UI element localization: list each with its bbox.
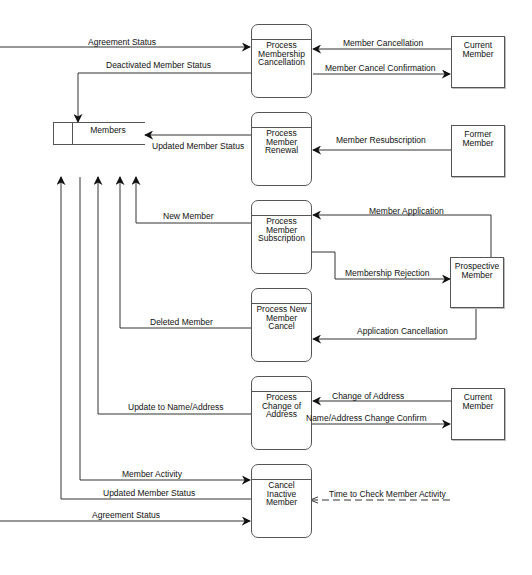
flow-label-member-activity: Member Activity	[122, 469, 182, 479]
flow-label-time-to-check: Time to Check Member Activity	[329, 489, 446, 499]
flow-label-name-address-change-confirm: Name/Address Change Confirm	[306, 413, 426, 423]
flow-label-new-member: New Member	[163, 211, 214, 221]
process-membership-cancellation[interactable]: ProcessMembershipCancellation	[251, 24, 312, 98]
process-header	[252, 113, 311, 128]
process-cancel-inactive-member[interactable]: CancelInactiveMember	[251, 464, 312, 538]
entity-former-member[interactable]: FormerMember	[451, 125, 505, 177]
flow-label-membership-rejection: Membership Rejection	[345, 268, 430, 278]
flow-label-updated-member-status-renewal: Updated Member Status	[152, 141, 244, 151]
flow-label-deleted-member: Deleted Member	[150, 317, 213, 327]
flow-label-agreement-status-top: Agreement Status	[88, 37, 156, 47]
flow-label-member-application: Member Application	[369, 206, 444, 216]
process-new-member-cancel[interactable]: Process NewMemberCancel	[251, 288, 312, 362]
process-header	[252, 465, 311, 480]
entity-prospective-member[interactable]: ProspectiveMember	[450, 257, 504, 308]
flow-label-update-name-address: Update to Name/Address	[128, 402, 223, 412]
entity-current-member-bottom[interactable]: CurrentMember	[451, 388, 505, 440]
flow-label-change-of-address: Change of Address	[332, 391, 404, 401]
flow-label-application-cancellation: Application Cancellation	[357, 326, 448, 336]
process-header	[252, 201, 311, 216]
flow-label-member-cancel-confirmation: Member Cancel Confirmation	[325, 63, 436, 73]
data-store-members[interactable]: Members	[53, 122, 145, 145]
flow-label-agreement-status-bottom: Agreement Status	[92, 510, 160, 520]
process-member-renewal[interactable]: ProcessMemberRenewal	[251, 112, 312, 186]
process-header	[252, 377, 311, 392]
flow-label-deactivated-member-status: Deactivated Member Status	[106, 60, 211, 70]
flow-label-updated-member-status-inactive: Updated Member Status	[103, 488, 195, 498]
flow-label-member-resubscription: Member Resubscription	[336, 135, 426, 145]
entity-current-member-top[interactable]: CurrentMember	[451, 36, 505, 88]
flow-label-member-cancellation: Member Cancellation	[343, 38, 423, 48]
data-store-id-cell	[53, 123, 73, 144]
data-store-label: Members	[71, 125, 145, 135]
process-member-subscription[interactable]: ProcessMemberSubscription	[251, 200, 312, 274]
process-header	[252, 289, 311, 304]
process-change-of-address[interactable]: ProcessChange ofAddress	[251, 376, 312, 450]
process-header	[252, 25, 311, 40]
